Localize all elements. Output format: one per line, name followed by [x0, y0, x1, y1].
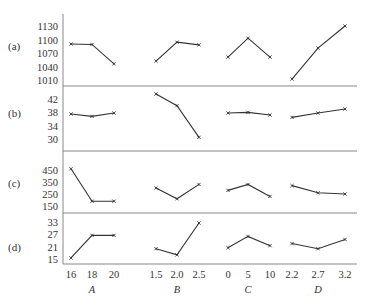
x-tick-label: 2.7 — [311, 269, 324, 280]
data-point-marker — [316, 46, 319, 49]
x-tick-label: 2.2 — [285, 269, 298, 280]
y-tick-labels: 1130110010701040101042383430450350250150… — [37, 21, 59, 265]
series-line-a — [71, 169, 114, 201]
data-point-marker — [69, 167, 72, 170]
x-tick-label: 3.2 — [338, 269, 351, 280]
data-point-marker — [343, 24, 346, 27]
y-tick-label: 150 — [42, 201, 58, 212]
data-point-marker — [154, 60, 157, 63]
x-tick-label: 2.0 — [170, 269, 183, 280]
main-effects-chart: (a)(b)(c)(d) 113011001070104010104238343… — [0, 0, 372, 306]
data-point-marker — [246, 37, 249, 40]
series-line-a — [71, 44, 114, 64]
data-point-marker — [290, 78, 293, 81]
series-line-b — [156, 94, 199, 137]
y-tick-label: 1010 — [37, 75, 58, 86]
y-tick-label: 1130 — [37, 21, 58, 32]
series-line-c — [228, 236, 270, 247]
y-tick-label: 27 — [48, 229, 59, 240]
factor-labels: ABCD — [88, 284, 322, 295]
panel-labels: (a)(b)(c)(d) — [8, 40, 21, 254]
y-tick-label: 21 — [48, 242, 59, 253]
y-tick-label: 1100 — [37, 35, 58, 46]
data-point-marker — [226, 246, 229, 249]
panel-label: (a) — [8, 40, 21, 53]
panel-label: (c) — [8, 177, 21, 190]
x-tick-label: 16 — [66, 269, 77, 280]
factor-label-c: C — [244, 284, 252, 295]
series-line-c — [228, 38, 270, 57]
series-line-d — [292, 239, 345, 248]
series-line-b — [156, 184, 199, 198]
series-line-b — [156, 42, 199, 61]
data-lines — [69, 24, 346, 259]
y-tick-label: 33 — [48, 217, 59, 228]
y-tick-label: 1040 — [37, 62, 58, 73]
y-tick-label: 350 — [42, 177, 58, 188]
x-tick-label: 18 — [87, 269, 98, 280]
y-tick-label: 450 — [42, 165, 58, 176]
y-tick-label: 34 — [48, 121, 59, 132]
x-tick-label: 20 — [109, 269, 120, 280]
factor-label-b: B — [174, 284, 181, 295]
x-tick-label: 5 — [245, 269, 250, 280]
series-line-c — [228, 184, 270, 196]
series-line-a — [71, 235, 114, 258]
y-tick-label: 1070 — [37, 48, 58, 59]
series-line-d — [292, 26, 345, 79]
x-tick-labels: 1618201.52.02.505102.22.73.2 — [66, 269, 352, 280]
data-point-marker — [69, 256, 72, 259]
panel-label: (b) — [8, 107, 21, 120]
axes — [63, 14, 357, 264]
x-tick-label: 0 — [225, 269, 230, 280]
data-point-marker — [268, 55, 271, 58]
series-line-b — [156, 223, 199, 255]
data-point-marker — [197, 183, 200, 186]
factor-label-a: A — [88, 284, 96, 295]
y-tick-label: 42 — [48, 94, 59, 105]
panel-label: (d) — [8, 241, 21, 254]
x-tick-label: 2.5 — [192, 269, 205, 280]
data-point-marker — [197, 221, 200, 224]
y-tick-label: 38 — [48, 107, 59, 118]
x-tick-label: 10 — [265, 269, 276, 280]
data-point-marker — [197, 136, 200, 139]
factor-label-d: D — [313, 284, 322, 295]
y-tick-label: 30 — [48, 134, 59, 145]
data-point-marker — [112, 62, 115, 65]
y-tick-label: 15 — [48, 254, 59, 265]
y-tick-label: 250 — [42, 189, 58, 200]
x-tick-label: 1.5 — [149, 269, 162, 280]
data-point-marker — [226, 55, 229, 58]
